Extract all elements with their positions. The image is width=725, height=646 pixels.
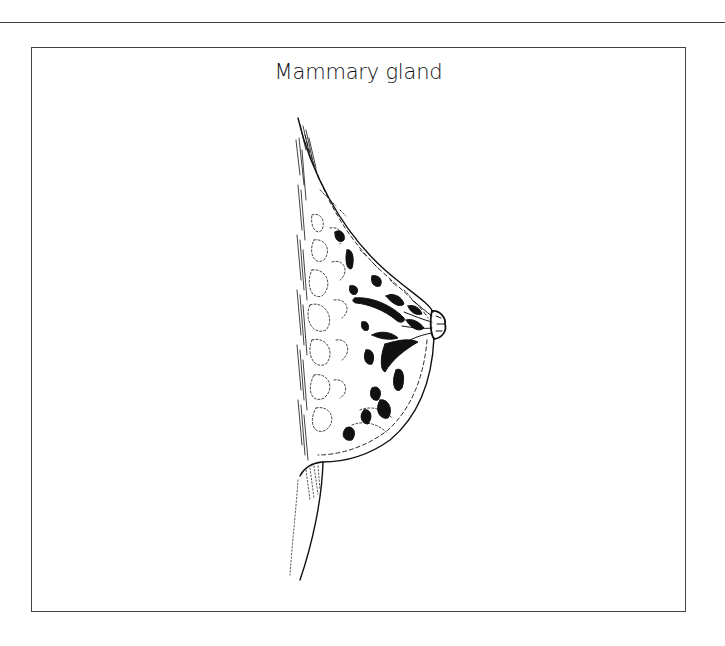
lactiferous-ducts — [335, 231, 424, 441]
chest-wall-hatching — [296, 125, 316, 460]
nipple — [431, 311, 446, 339]
mammary-gland-illustration — [0, 0, 725, 646]
